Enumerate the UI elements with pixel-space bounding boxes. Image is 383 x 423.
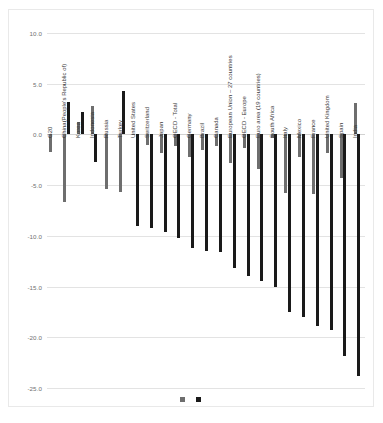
category-label: South Africa bbox=[269, 106, 275, 138]
bar[interactable] bbox=[219, 134, 222, 252]
bar-group[interactable]: United States bbox=[130, 33, 144, 388]
category-label: OECD - Total bbox=[172, 103, 178, 138]
bar[interactable] bbox=[330, 134, 333, 330]
bar-group[interactable]: France bbox=[310, 33, 324, 388]
y-axis-tick-label: 5.0 bbox=[33, 80, 42, 87]
bar-group[interactable]: Brazil bbox=[199, 33, 213, 388]
bar[interactable] bbox=[136, 134, 139, 225]
legend-swatch-icon bbox=[180, 397, 185, 402]
bar-groups: G20China(People's Republic of)KoreaIndon… bbox=[47, 33, 365, 388]
bar[interactable] bbox=[233, 134, 236, 268]
gridline bbox=[47, 388, 365, 389]
category-label: Mexico bbox=[296, 119, 302, 138]
bar-group[interactable]: Turkey bbox=[116, 33, 130, 388]
chart-frame: 10.05.00.0-5.0-10.0-15.0-20.0-25.0 G20Ch… bbox=[8, 9, 374, 407]
bar[interactable] bbox=[81, 112, 84, 134]
category-label: Switzerland bbox=[144, 107, 150, 138]
bar-group[interactable]: Germany bbox=[185, 33, 199, 388]
category-label: India bbox=[352, 125, 358, 138]
bar[interactable] bbox=[312, 134, 315, 194]
bar[interactable] bbox=[229, 134, 232, 162]
category-label: G20 bbox=[47, 127, 53, 138]
bar[interactable] bbox=[260, 134, 263, 281]
plot-area: 10.05.00.0-5.0-10.0-15.0-20.0-25.0 G20Ch… bbox=[47, 33, 365, 388]
category-label: OECD - Europe bbox=[241, 97, 247, 139]
legend-swatch-icon bbox=[196, 397, 201, 402]
y-axis-tick-label: -10.0 bbox=[27, 232, 42, 239]
category-label: Euro area (19 countries) bbox=[255, 74, 261, 139]
legend-item[interactable] bbox=[180, 397, 187, 402]
bar[interactable] bbox=[274, 134, 277, 286]
category-label: Indonesia bbox=[89, 112, 95, 138]
legend-item[interactable] bbox=[196, 397, 203, 402]
bar[interactable] bbox=[105, 134, 108, 189]
category-label: European Union – 27 countries bbox=[227, 56, 233, 139]
bar[interactable] bbox=[288, 134, 291, 312]
category-label: Japan bbox=[158, 122, 164, 138]
bar-group[interactable]: Switzerland bbox=[144, 33, 158, 388]
category-label: Spain bbox=[338, 123, 344, 138]
bar[interactable] bbox=[357, 134, 360, 375]
bar-group[interactable]: European Union – 27 countries bbox=[227, 33, 241, 388]
bar-group[interactable]: Euro area (19 countries) bbox=[254, 33, 268, 388]
bar[interactable] bbox=[340, 134, 343, 178]
category-label: Italy bbox=[282, 127, 288, 138]
bar[interactable] bbox=[164, 134, 167, 231]
bar-group[interactable]: Mexico bbox=[296, 33, 310, 388]
category-label: China(People's Republic of) bbox=[61, 64, 67, 138]
bar[interactable] bbox=[63, 134, 66, 202]
y-axis-tick-label: -15.0 bbox=[27, 283, 42, 290]
bar-group[interactable]: India bbox=[351, 33, 365, 388]
category-label: Korea bbox=[75, 122, 81, 138]
bar-group[interactable]: Spain bbox=[337, 33, 351, 388]
bar[interactable] bbox=[302, 134, 305, 317]
bar[interactable] bbox=[191, 134, 194, 248]
bar-group[interactable]: South Africa bbox=[268, 33, 282, 388]
category-label: Germany bbox=[186, 114, 192, 139]
chart-legend bbox=[9, 397, 373, 402]
bar[interactable] bbox=[119, 134, 122, 192]
bar-group[interactable]: Russia bbox=[102, 33, 116, 388]
y-axis-tick-label: -25.0 bbox=[27, 385, 42, 392]
category-label: Russia bbox=[103, 120, 109, 138]
y-axis-tick-label: -5.0 bbox=[31, 182, 42, 189]
bar[interactable] bbox=[316, 134, 319, 326]
bar[interactable] bbox=[284, 134, 287, 193]
bar[interactable] bbox=[67, 102, 70, 134]
bar-group[interactable]: United Kingdom bbox=[324, 33, 338, 388]
bar-group[interactable]: Canada bbox=[213, 33, 227, 388]
y-axis-tick-label: 10.0 bbox=[30, 30, 42, 37]
bar[interactable] bbox=[205, 134, 208, 251]
bar-group[interactable]: Korea bbox=[75, 33, 89, 388]
bar-group[interactable]: OECD - Europe bbox=[241, 33, 255, 388]
category-label: United Kingdom bbox=[324, 96, 330, 139]
bar[interactable] bbox=[247, 134, 250, 276]
y-axis-tick-label: 0.0 bbox=[33, 131, 42, 138]
category-label: Brazil bbox=[199, 123, 205, 138]
bar-group[interactable]: Japan bbox=[158, 33, 172, 388]
category-label: United States bbox=[130, 102, 136, 138]
bar-group[interactable]: Italy bbox=[282, 33, 296, 388]
category-label: Turkey bbox=[117, 120, 123, 138]
bar-group[interactable]: G20 bbox=[47, 33, 61, 388]
bar[interactable] bbox=[150, 134, 153, 227]
bar[interactable] bbox=[257, 134, 260, 168]
category-label: Canada bbox=[213, 117, 219, 138]
bar[interactable] bbox=[94, 134, 97, 161]
category-label: France bbox=[310, 120, 316, 139]
bar-group[interactable]: China(People's Republic of) bbox=[61, 33, 75, 388]
bar-group[interactable]: Indonesia bbox=[88, 33, 102, 388]
bar[interactable] bbox=[343, 134, 346, 355]
bar-group[interactable]: OECD - Total bbox=[171, 33, 185, 388]
y-axis-tick-label: -20.0 bbox=[27, 334, 42, 341]
bar[interactable] bbox=[177, 134, 180, 237]
